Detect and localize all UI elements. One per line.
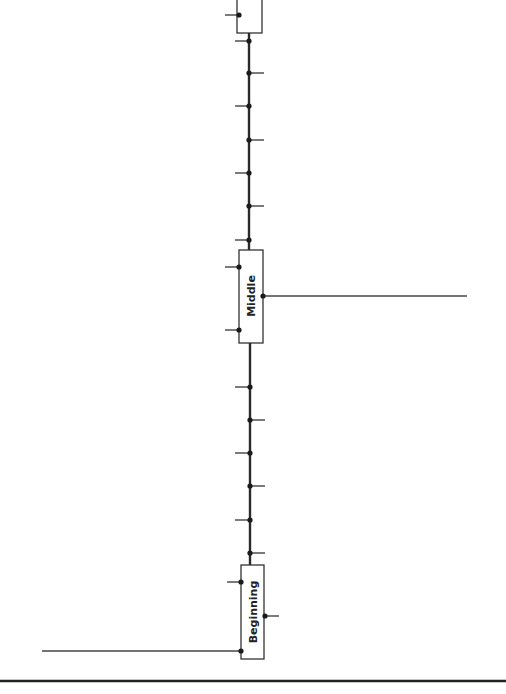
- tick-right: [246, 70, 264, 75]
- top-box: [225, 0, 262, 33]
- tick-left: [235, 38, 252, 43]
- tick-left: [235, 450, 253, 455]
- connector-dot: [236, 327, 241, 332]
- tick-left: [235, 517, 253, 522]
- tick-right: [246, 137, 264, 142]
- tick-right: [247, 550, 265, 555]
- lower-spine: [235, 343, 265, 565]
- upper-spine: [235, 33, 264, 250]
- tick-left: [235, 384, 253, 389]
- tick-right: [247, 417, 265, 422]
- connector-dot: [260, 293, 265, 298]
- tick-left: [235, 103, 252, 108]
- tick-right: [246, 203, 264, 208]
- beginning-label: Beginning: [247, 581, 260, 644]
- timeline-diagram: Middle Beginning: [0, 0, 506, 694]
- tick-left: [235, 170, 252, 175]
- connector-dot: [262, 613, 267, 618]
- middle-label: Middle: [245, 275, 258, 317]
- connector-dot: [236, 12, 241, 17]
- connector-dot: [236, 264, 241, 269]
- middle-box: Middle: [225, 250, 467, 343]
- connector-dot: [238, 648, 243, 653]
- connector-dot: [238, 579, 243, 584]
- tick-right: [247, 483, 265, 488]
- tick-left: [235, 237, 252, 242]
- beginning-box: Beginning: [42, 565, 279, 659]
